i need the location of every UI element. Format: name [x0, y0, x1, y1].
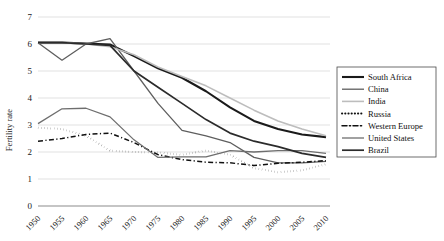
- x-tick-label: 1975: [143, 213, 162, 232]
- x-axis-tick-labels: 1950195519601965197019751980198519901995…: [23, 213, 330, 232]
- fertility-rate-line-chart: 01234567 1950195519601965197019751980198…: [0, 0, 444, 241]
- y-axis-tick-labels: 01234567: [28, 12, 33, 211]
- y-tick-label: 1: [28, 174, 33, 184]
- legend-label-western-europe: Western Europe: [368, 121, 423, 131]
- x-tick-label: 1960: [71, 213, 90, 232]
- legend-label-south-africa: South Africa: [368, 72, 412, 82]
- x-tick-label: 1990: [215, 213, 234, 232]
- series-line-western-europe: [38, 133, 326, 165]
- chart-legend: South AfricaChinaIndiaRussiaWestern Euro…: [337, 67, 436, 157]
- x-tick-label: 1970: [119, 213, 138, 232]
- x-tick-label: 1965: [95, 213, 114, 232]
- series-line-russia: [38, 128, 326, 173]
- x-tick-label: 1950: [23, 213, 42, 232]
- x-tick-label: 2005: [287, 213, 306, 232]
- y-tick-label: 2: [28, 147, 33, 157]
- series-line-brazil: [38, 43, 326, 158]
- x-tick-label: 1995: [239, 213, 258, 232]
- y-tick-label: 7: [28, 12, 33, 22]
- x-tick-label: 2010: [311, 213, 330, 232]
- x-tick-label: 1955: [47, 213, 66, 232]
- series-line-china: [38, 39, 326, 163]
- legend-label-brazil: Brazil: [368, 145, 390, 155]
- x-tick-label: 2000: [263, 213, 282, 232]
- legend-label-russia: Russia: [368, 109, 391, 119]
- legend-label-india: India: [368, 96, 386, 106]
- x-tick-label: 1980: [167, 213, 186, 232]
- y-tick-label: 6: [28, 39, 33, 49]
- y-tick-label: 3: [28, 120, 33, 130]
- chart-figure: 01234567 1950195519601965197019751980198…: [0, 0, 444, 241]
- y-axis-title: Fertility rate: [4, 109, 14, 151]
- series-line-united-states: [38, 108, 326, 157]
- legend-label-united-states: United States: [368, 133, 415, 143]
- y-tick-label: 0: [28, 201, 33, 211]
- gridlines: [38, 17, 330, 179]
- x-tick-label: 1985: [191, 213, 210, 232]
- y-tick-label: 4: [28, 93, 33, 103]
- legend-label-china: China: [368, 84, 389, 94]
- y-tick-label: 5: [28, 66, 33, 76]
- series-line-india: [38, 43, 326, 136]
